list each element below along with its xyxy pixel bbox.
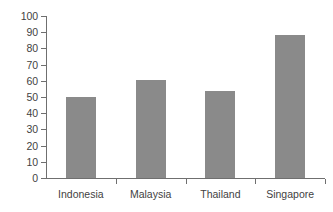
y-axis-tick (41, 97, 46, 98)
y-axis-tick-label: 30 (0, 124, 38, 135)
y-axis-tick-label: 80 (0, 43, 38, 54)
y-axis-tick-label: 20 (0, 141, 38, 152)
y-axis-tick (41, 113, 46, 114)
y-axis-tick-label: 50 (0, 92, 38, 103)
x-axis-tick (325, 179, 326, 184)
y-axis-tick (41, 129, 46, 130)
x-axis-category-label: Singapore (255, 188, 325, 200)
bar (205, 91, 235, 178)
y-axis-tick-label: 40 (0, 108, 38, 119)
y-axis-tick-label: 10 (0, 157, 38, 168)
y-axis-tick-label: 100 (0, 11, 38, 22)
bar (66, 97, 96, 178)
y-axis-tick-label: 60 (0, 76, 38, 87)
y-axis-tick (41, 146, 46, 147)
bar (275, 35, 305, 178)
y-axis-tick (41, 48, 46, 49)
y-axis-tick-label: 70 (0, 60, 38, 71)
x-axis-tick (255, 179, 256, 184)
y-axis-tick (41, 65, 46, 66)
y-axis-tick (41, 162, 46, 163)
x-axis-category-label: Indonesia (46, 188, 116, 200)
x-axis-category-label: Thailand (186, 188, 256, 200)
y-axis-tick (41, 16, 46, 17)
bar (136, 80, 166, 178)
y-axis-line (46, 16, 47, 178)
y-axis-tick-label: 90 (0, 27, 38, 38)
y-axis-tick (41, 32, 46, 33)
x-axis-category-label: Malaysia (116, 188, 186, 200)
bar-chart: 0102030405060708090100 IndonesiaMalaysia… (0, 0, 333, 212)
y-axis-tick (41, 178, 46, 179)
y-axis-tick (41, 81, 46, 82)
x-axis-tick (186, 179, 187, 184)
y-axis-tick-label: 0 (0, 173, 38, 184)
x-axis-tick (116, 179, 117, 184)
